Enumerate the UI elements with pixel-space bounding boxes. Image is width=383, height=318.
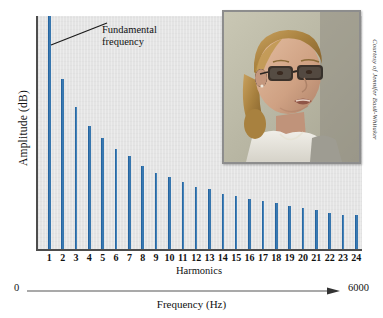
- frequency-max-label: 6000: [348, 282, 369, 293]
- fundamental-frequency-annotation: Fundamental frequency: [102, 24, 157, 48]
- bar-harmonic-9: [155, 173, 158, 250]
- bar-harmonic-1: [48, 16, 51, 250]
- bar-harmonic-21: [315, 210, 318, 250]
- bar-harmonic-16: [248, 199, 251, 250]
- annotation-leader-line: [50, 20, 110, 46]
- harmonic-tick-11: 11: [178, 252, 187, 263]
- bar-harmonic-11: [182, 182, 185, 250]
- harmonic-tick-20: 20: [298, 252, 308, 263]
- bar-harmonic-23: [342, 215, 345, 250]
- harmonic-tick-15: 15: [231, 252, 241, 263]
- bar-harmonic-22: [328, 213, 331, 250]
- harmonic-tick-14: 14: [218, 252, 228, 263]
- photo-credit: Courtesy of Jennifer Basil-Whitaker: [372, 25, 379, 155]
- bar-harmonic-18: [275, 203, 278, 250]
- harmonic-tick-24: 24: [351, 252, 361, 263]
- portrait-illustration: [224, 12, 359, 162]
- harmonic-tick-6: 6: [114, 252, 119, 263]
- harmonic-tick-23: 23: [338, 252, 348, 263]
- annotation-line-1: Fundamental: [102, 24, 157, 36]
- harmonic-tick-7: 7: [127, 252, 132, 263]
- bar-harmonic-24: [355, 215, 358, 250]
- y-axis-line: [36, 16, 38, 250]
- bar-harmonic-19: [288, 206, 291, 250]
- spectrum-figure: Amplitude (dB) Fundamental frequency 123…: [0, 0, 383, 318]
- harmonic-tick-21: 21: [311, 252, 321, 263]
- harmonic-tick-16: 16: [245, 252, 255, 263]
- harmonic-tick-1: 1: [47, 252, 52, 263]
- bar-harmonic-13: [208, 189, 211, 250]
- annotation-line-2: frequency: [102, 36, 157, 48]
- bar-harmonic-2: [61, 79, 64, 250]
- bar-harmonic-14: [222, 194, 225, 250]
- harmonic-tick-3: 3: [74, 252, 79, 263]
- frequency-axis: 0 6000: [14, 282, 369, 296]
- bar-harmonic-20: [302, 208, 305, 250]
- bar-harmonic-12: [195, 187, 198, 250]
- harmonic-tick-12: 12: [191, 252, 201, 263]
- bar-harmonic-15: [235, 196, 238, 250]
- harmonic-tick-17: 17: [258, 252, 268, 263]
- bar-harmonic-7: [128, 156, 131, 250]
- bar-harmonic-8: [141, 166, 144, 250]
- harmonics-axis-label: Harmonics: [36, 265, 362, 276]
- bar-harmonic-4: [88, 126, 91, 250]
- harmonic-tick-18: 18: [271, 252, 281, 263]
- harmonic-tick-2: 2: [60, 252, 65, 263]
- inset-photo: [222, 10, 361, 164]
- harmonic-tick-19: 19: [285, 252, 295, 263]
- bar-harmonic-17: [262, 201, 265, 250]
- harmonic-tick-13: 13: [205, 252, 215, 263]
- frequency-arrow-icon: [27, 287, 342, 295]
- harmonic-tick-8: 8: [140, 252, 145, 263]
- bar-harmonic-10: [168, 177, 171, 250]
- harmonic-tick-10: 10: [164, 252, 174, 263]
- harmonic-tick-labels: 123456789101112131415161718192021222324: [36, 252, 362, 266]
- x-axis-line: [36, 249, 362, 251]
- bar-harmonic-5: [101, 138, 104, 250]
- harmonic-tick-5: 5: [100, 252, 105, 263]
- frequency-axis-label: Frequency (Hz): [14, 298, 369, 310]
- harmonic-tick-22: 22: [325, 252, 335, 263]
- bar-harmonic-6: [115, 149, 118, 250]
- harmonic-tick-9: 9: [154, 252, 159, 263]
- y-axis-label: Amplitude (dB): [17, 58, 29, 198]
- frequency-min-label: 0: [14, 282, 19, 293]
- bar-harmonic-3: [75, 107, 78, 250]
- harmonic-tick-4: 4: [87, 252, 92, 263]
